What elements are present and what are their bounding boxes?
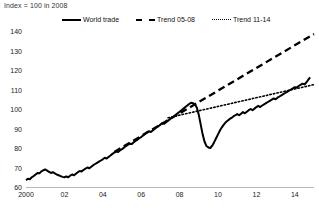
- x-tick-label: 12: [252, 191, 260, 198]
- x-tick-label: 04: [99, 191, 107, 198]
- x-axis-line: [26, 187, 314, 188]
- plot-svg: [26, 31, 314, 187]
- x-tick-label: 08: [176, 191, 184, 198]
- x-tick-label: 2000: [18, 191, 34, 198]
- x-tick-label: 02: [60, 191, 68, 198]
- plot-area: [26, 31, 314, 187]
- x-tick-label: 14: [291, 191, 299, 198]
- x-tick-label: 06: [137, 191, 145, 198]
- x-tick-label: 10: [214, 191, 222, 198]
- world-trade-line-chart: Index = 100 in 2008 World trade Trend 05…: [0, 0, 319, 209]
- series-line-world-trade: [26, 77, 310, 180]
